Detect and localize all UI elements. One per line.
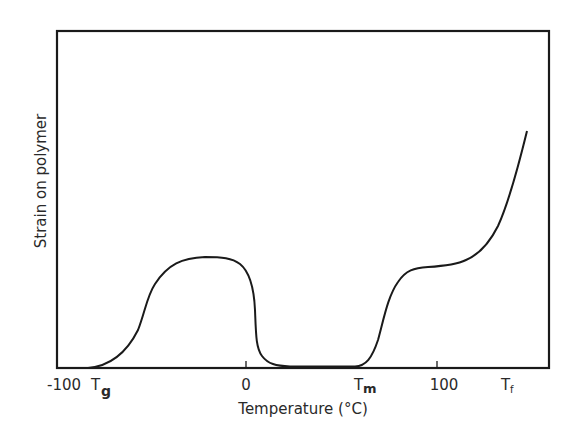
x-tick-label-100: 100 (430, 376, 459, 394)
plot-frame (57, 31, 549, 368)
tg-label-sub: g (101, 383, 111, 399)
tm-label-sub: m (363, 381, 377, 396)
x-tick-label-minus100: -100 (47, 376, 81, 394)
strain-curve (88, 131, 527, 368)
tg-label-main: T (90, 376, 101, 394)
x-axis-title: Temperature (°C) (237, 400, 367, 418)
x-tick-label-0: 0 (241, 376, 251, 394)
y-axis-title: Strain on polymer (32, 113, 50, 248)
tf-annotation: T f (500, 376, 514, 395)
tf-label-sub: f (510, 384, 514, 395)
chart-canvas: -100 0 100 T g T m T f Temperature (°C) … (0, 0, 573, 435)
tg-annotation: T g (90, 376, 111, 399)
tm-annotation: T m (353, 376, 377, 396)
